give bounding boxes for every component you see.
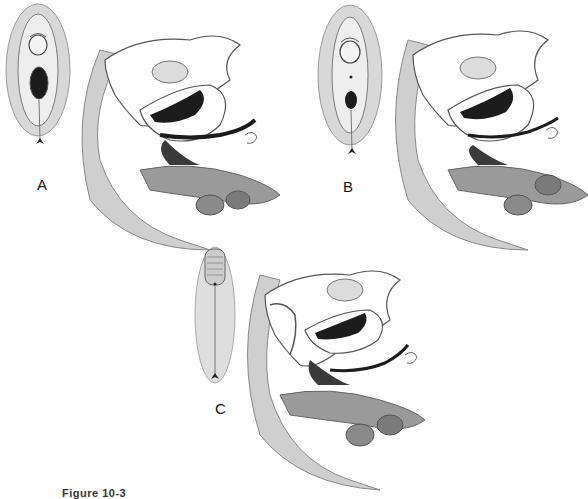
ovary-fimbria xyxy=(546,127,558,138)
bowel-loop-1 xyxy=(346,424,374,446)
perineal-view-b xyxy=(305,0,385,165)
ovary-fimbria xyxy=(245,132,257,143)
figure-caption: Figure 10-3 xyxy=(62,487,126,499)
pubic-bone xyxy=(152,61,188,83)
panel-b: B xyxy=(300,0,588,250)
pubic-bone xyxy=(327,279,363,301)
vaginal-opening xyxy=(30,67,48,99)
urethral-opening xyxy=(350,76,353,79)
bowel-loop-1 xyxy=(196,195,224,215)
panel-a: A xyxy=(0,0,300,250)
sagittal-view-c xyxy=(240,245,470,490)
vaginal-opening xyxy=(345,91,357,109)
sagittal-view-a xyxy=(60,0,300,250)
clitoris xyxy=(29,35,47,55)
panel-label-a: A xyxy=(37,176,47,193)
posterior-fornix xyxy=(161,140,200,165)
clitoris xyxy=(340,41,360,63)
bowel-loop-1 xyxy=(504,195,532,215)
panel-label-c: C xyxy=(215,400,226,417)
phallus xyxy=(205,249,225,285)
panel-c: C xyxy=(180,245,480,495)
labia-minora xyxy=(332,17,368,133)
ovary-fimbria xyxy=(405,352,417,363)
pubic-bone xyxy=(460,57,496,79)
anus-icon xyxy=(36,138,44,144)
bowel-loop-2 xyxy=(377,415,403,435)
bowel-loop-2 xyxy=(535,175,561,195)
posterior-fornix xyxy=(469,145,508,165)
panel-label-b: B xyxy=(343,178,353,195)
anus-icon xyxy=(348,148,356,154)
sagittal-view-b xyxy=(388,0,588,250)
bowel-loop-2 xyxy=(226,191,250,209)
